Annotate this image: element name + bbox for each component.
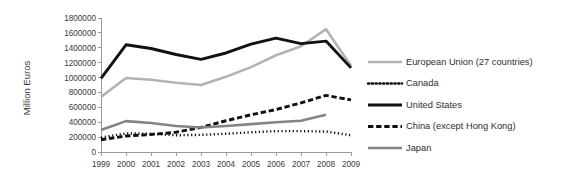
legend-label-4: Japan	[406, 143, 431, 153]
x-tick-label: 2003	[192, 160, 211, 169]
x-tick-label: 2005	[242, 160, 261, 169]
x-tick-label: 2008	[317, 160, 336, 169]
x-tick-label: 2000	[117, 160, 136, 169]
x-tick-label: 2001	[142, 160, 161, 169]
x-tick-label: 2006	[267, 160, 286, 169]
y-tick-label: 200000	[69, 133, 97, 142]
y-tick-label: 0	[91, 148, 96, 157]
series-line-4	[101, 115, 326, 130]
x-tick-label: 2002	[167, 160, 186, 169]
y-tick-label: 1000000	[64, 74, 96, 83]
chart-legend: European Union (27 countries)CanadaUnite…	[368, 57, 533, 153]
x-axis-tick-labels: 1999200020012002200320042005200620072008…	[92, 160, 361, 169]
y-tick-label: 1400000	[64, 44, 96, 53]
series-line-2	[101, 38, 351, 78]
legend-label-0: European Union (27 countries)	[406, 57, 533, 67]
legend-label-2: United States	[406, 100, 462, 110]
legend-label-3: China (except Hong Kong)	[406, 121, 516, 131]
x-tick-label: 1999	[92, 160, 111, 169]
data-series-group	[101, 29, 351, 140]
legend-label-1: Canada	[406, 78, 439, 88]
y-axis-title: Million Euros	[21, 61, 32, 116]
x-tick-label: 2009	[342, 160, 361, 169]
y-axis-title-group: Million Euros	[21, 61, 32, 116]
chart-svg: Million Euros 02000004000006000008000001…	[0, 0, 564, 183]
y-tick-label: 1200000	[64, 59, 96, 68]
y-tick-label: 1600000	[64, 29, 96, 38]
y-axis-tick-labels: 0200000400000600000800000100000012000001…	[64, 14, 96, 157]
line-chart: Million Euros 02000004000006000008000001…	[0, 0, 564, 183]
series-line-0	[101, 29, 351, 97]
y-tick-label: 1800000	[64, 14, 96, 23]
x-tick-label: 2007	[292, 160, 311, 169]
y-tick-label: 800000	[69, 88, 97, 97]
y-tick-label: 600000	[69, 103, 97, 112]
y-tick-label: 400000	[69, 118, 97, 127]
x-tick-label: 2004	[217, 160, 236, 169]
